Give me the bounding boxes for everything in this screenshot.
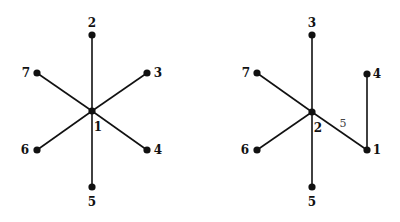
edge-2-6	[257, 112, 312, 150]
node-label: 3	[154, 66, 162, 80]
node-7	[33, 69, 40, 76]
node-label: 5	[88, 195, 96, 209]
node-label: 6	[21, 143, 29, 157]
node-label: 7	[22, 66, 30, 80]
node-7	[253, 69, 260, 76]
graph-canvas: 123456723415675	[0, 0, 400, 222]
node-5	[308, 183, 315, 190]
node-label: 7	[242, 66, 250, 80]
edge-1-3	[92, 73, 147, 111]
node-label: 2	[88, 16, 96, 30]
node-4	[363, 70, 370, 77]
node-label: 2	[314, 121, 322, 135]
node-2	[88, 31, 95, 38]
node-label: 4	[373, 67, 381, 81]
node-1	[363, 146, 370, 153]
node-6	[253, 146, 260, 153]
node-label: 6	[241, 143, 249, 157]
tree-right: 23415675	[241, 16, 381, 209]
edge-2-7	[257, 73, 312, 112]
edge-weight-label: 5	[340, 117, 347, 130]
node-label: 4	[154, 143, 162, 157]
node-label: 1	[373, 143, 381, 157]
star-tree-left: 1234567	[21, 16, 162, 209]
node-3	[308, 31, 315, 38]
edge-1-7	[37, 73, 92, 111]
node-2	[308, 108, 315, 115]
node-5	[88, 183, 95, 190]
node-1	[88, 107, 95, 114]
node-3	[143, 69, 150, 76]
node-label: 3	[308, 16, 316, 30]
node-4	[143, 146, 150, 153]
edge-1-6	[37, 111, 92, 150]
node-6	[33, 146, 40, 153]
node-label: 1	[94, 120, 102, 134]
node-label: 5	[308, 195, 316, 209]
